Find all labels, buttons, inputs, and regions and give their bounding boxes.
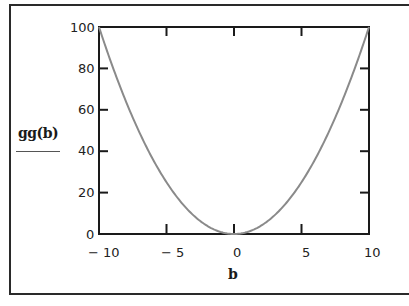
- y-axis-label: gg(b): [18, 125, 58, 141]
- x-tick-label: 5: [302, 245, 310, 260]
- x-tick-label: − 10: [88, 245, 120, 260]
- y-tick-label: 60: [78, 102, 95, 117]
- y-tick-label: 80: [78, 61, 95, 76]
- y-ticks-right: [360, 68, 369, 192]
- x-axis-label: b: [228, 266, 238, 282]
- x-tick-label: 10: [364, 245, 381, 260]
- y-tick-label: 0: [86, 227, 94, 242]
- x-tick-label: 0: [233, 245, 241, 260]
- y-tick-label: 100: [70, 20, 95, 35]
- x-tick-label: − 5: [161, 245, 184, 260]
- y-tick-label: 40: [78, 143, 95, 158]
- x-ticks-top: [167, 27, 302, 36]
- y-axis-label-underline: [16, 151, 60, 152]
- y-ticks-left: [99, 68, 108, 192]
- series-line-gg: [99, 27, 369, 234]
- y-tick-label: 20: [78, 185, 95, 200]
- x-ticks-bottom: [167, 224, 302, 234]
